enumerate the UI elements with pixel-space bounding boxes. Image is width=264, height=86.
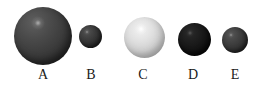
sphere-e: [222, 27, 248, 53]
sphere-comparison-figure: A B C D E: [0, 0, 264, 86]
sphere-label-a: A: [31, 66, 55, 84]
sphere-group: [0, 0, 264, 66]
sphere-c: [124, 17, 165, 58]
sphere-label-b: B: [79, 66, 103, 84]
sphere-label-group: A B C D E: [0, 66, 264, 86]
sphere-label-d: D: [181, 66, 205, 84]
sphere-label-c: C: [131, 66, 155, 84]
sphere-a: [14, 7, 72, 65]
sphere-label-e: E: [223, 66, 247, 84]
sphere-b: [79, 25, 102, 48]
sphere-d: [178, 23, 211, 56]
